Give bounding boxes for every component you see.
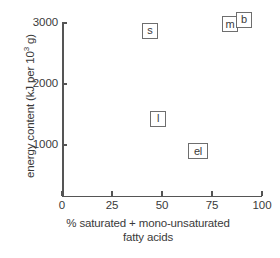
x-axis-tick-mark <box>261 191 263 196</box>
y-axis-title: energy content (kJ per 103 g) <box>24 16 36 196</box>
y-axis-title-exponent: 3 <box>22 47 31 51</box>
x-axis-title: % saturated + mono-unsaturated fatty aci… <box>34 216 262 244</box>
data-point-marker-s: s <box>142 23 158 39</box>
scatter-plot: 100020003000 0255075100 energy content (… <box>0 0 280 258</box>
x-axis-tick-mark <box>211 191 213 196</box>
data-point-marker-b: b <box>236 12 252 28</box>
x-axis-tick-label: 75 <box>192 199 232 211</box>
y-axis-tick-mark <box>62 83 67 85</box>
x-axis-tick-label: 0 <box>42 199 82 211</box>
x-axis-tick-label: 25 <box>92 199 132 211</box>
x-axis-title-line-2: fatty acids <box>34 230 262 244</box>
x-axis-line <box>62 196 262 198</box>
x-axis-tick-mark <box>161 191 163 196</box>
data-point-marker-l: l <box>150 111 166 127</box>
x-axis-tick-mark <box>111 191 113 196</box>
x-axis-tick-label: 50 <box>142 199 182 211</box>
y-axis-tick-mark <box>62 22 67 24</box>
x-axis-tick-label: 100 <box>242 199 280 211</box>
data-point-marker-el: el <box>188 143 208 159</box>
y-axis-tick-mark <box>62 144 67 146</box>
y-axis-line <box>62 22 64 197</box>
x-axis-title-line-1: % saturated + mono-unsaturated <box>66 217 229 229</box>
x-axis-tick-mark <box>61 191 63 196</box>
